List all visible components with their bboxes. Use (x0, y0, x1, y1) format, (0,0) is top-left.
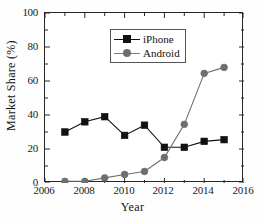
square-marker-icon (123, 35, 131, 43)
x-tick-label-2014: 2014 (186, 184, 220, 196)
datapoint-iphone-2013 (181, 144, 188, 151)
datapoint-iphone-2015 (221, 136, 228, 143)
legend-box: iPhone Android (110, 29, 186, 63)
datapoint-iphone-2011 (141, 122, 148, 129)
datapoint-android-2008 (81, 178, 88, 183)
x-tick-label-2016: 2016 (226, 184, 260, 196)
y-tick-label-100: 100 (12, 6, 38, 18)
x-axis-title: Year (0, 200, 265, 215)
datapoint-iphone-2014 (201, 138, 208, 145)
datapoint-iphone-2008 (82, 119, 89, 126)
circle-marker-icon (123, 49, 131, 57)
datapoint-android-2009 (101, 175, 108, 182)
datapoint-android-2015 (221, 64, 228, 71)
legend-sample-android (114, 48, 140, 58)
datapoint-iphone-2010 (121, 132, 128, 139)
legend-item-android[interactable]: Android (114, 46, 180, 60)
legend-label-iphone: iPhone (143, 33, 174, 45)
datapoint-android-2012 (161, 154, 168, 161)
legend-sample-iphone (114, 34, 140, 44)
datapoint-iphone-2012 (161, 144, 168, 151)
series-line-iphone (65, 117, 224, 148)
y-axis-title: Market Share (%) (4, 26, 19, 146)
market-share-line-chart: 0 20 40 60 80 100 2006 2008 2010 2012 20… (0, 0, 265, 224)
x-tick-label-2008: 2008 (67, 184, 101, 196)
datapoint-android-2010 (121, 171, 128, 178)
x-tick-label-2010: 2010 (107, 184, 141, 196)
legend-label-android: Android (143, 47, 180, 59)
datapoint-iphone-2007 (62, 129, 69, 136)
datapoint-android-2007 (62, 178, 69, 183)
datapoint-android-2014 (201, 70, 208, 77)
x-tick-label-2006: 2006 (27, 184, 61, 196)
datapoint-iphone-2009 (101, 113, 108, 120)
datapoint-android-2011 (141, 168, 148, 175)
x-tick-label-2012: 2012 (146, 184, 180, 196)
legend-item-iphone[interactable]: iPhone (114, 32, 180, 46)
datapoint-android-2013 (181, 121, 188, 128)
